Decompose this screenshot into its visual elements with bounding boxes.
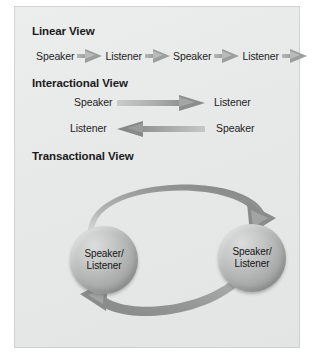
arrow-head-highlight xyxy=(153,51,163,59)
transactional-node-right-line2: Listener xyxy=(235,258,270,270)
linear-view-sequence: Speaker Listener Speaker Listener xyxy=(36,47,308,65)
linear-node-listener-2: Listener xyxy=(242,47,279,65)
section-heading-interactional: Interactional View xyxy=(32,77,128,89)
arrow-head-highlight xyxy=(85,51,95,59)
communication-models-diagram: Linear View Speaker Listener Speaker Lis… xyxy=(0,0,316,357)
interactional-node-speaker-top: Speaker xyxy=(74,96,112,108)
interactional-node-listener-top: Listener xyxy=(214,96,251,108)
arrow-right-icon xyxy=(77,49,102,63)
arrow-left-icon xyxy=(117,121,205,137)
linear-node-listener-1: Listener xyxy=(105,47,142,65)
curved-arrow-shaft xyxy=(88,185,264,232)
arrow-shaft xyxy=(139,126,205,132)
transactional-node-left: Speaker/ Listener xyxy=(70,226,138,294)
transactional-node-left-line1: Speaker/ xyxy=(84,248,123,260)
interactional-node-listener-bottom: Listener xyxy=(70,122,107,134)
arrow-right-icon xyxy=(145,49,170,63)
arrow-head-highlight xyxy=(290,51,300,59)
arrow-shaft xyxy=(117,100,183,106)
arrow-head-highlight xyxy=(222,51,232,59)
section-heading-transactional: Transactional View xyxy=(32,150,134,162)
arrow-right-icon xyxy=(214,49,239,63)
linear-node-speaker-2: Speaker xyxy=(173,47,211,65)
arrow-head-highlight xyxy=(127,123,143,133)
arrow-head-highlight xyxy=(179,97,195,107)
diagram-panel: Linear View Speaker Listener Speaker Lis… xyxy=(14,6,300,348)
transactional-node-left-line2: Listener xyxy=(87,260,122,272)
transactional-node-right: Speaker/ Listener xyxy=(218,224,286,292)
section-heading-linear: Linear View xyxy=(32,25,95,37)
interactional-node-speaker-bottom: Speaker xyxy=(216,122,254,134)
transactional-view-stage: Speaker/ Listener Speaker/ Listener xyxy=(28,166,314,354)
arrow-right-icon xyxy=(282,49,307,63)
transactional-node-right-line1: Speaker/ xyxy=(232,246,271,258)
arrow-right-icon xyxy=(117,95,205,111)
linear-node-speaker-1: Speaker xyxy=(36,47,74,65)
